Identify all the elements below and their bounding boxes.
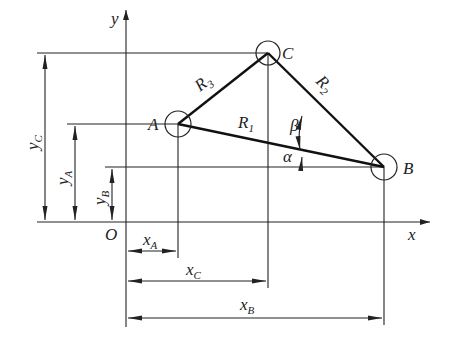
x-axis-label: x [407, 225, 416, 244]
x-dimensions: xA xC xB [128, 230, 382, 318]
dimension-yB-label: yB [90, 190, 111, 207]
y-axis-label: y [109, 9, 119, 28]
angle-beta-label: β [289, 116, 299, 135]
y-dimensions: yC yA yB [23, 55, 112, 220]
point-C-label: C [282, 44, 294, 63]
angle-alpha-arrow [301, 157, 302, 167]
origin-label: O [105, 225, 117, 244]
diagram-canvas: y x O yC yA yB xA xC xB R3 R2 R1 [0, 0, 450, 345]
point-B-label: B [403, 159, 414, 178]
link-R1 [178, 124, 384, 167]
link-R1-label: R1 [237, 113, 254, 134]
link-R3 [178, 53, 268, 124]
angle-alpha-label: α [283, 147, 293, 166]
link-R2-label: R2 [310, 71, 337, 98]
links: R3 R2 R1 [178, 53, 384, 167]
link-R3-label: R3 [190, 70, 217, 97]
angles: β α [283, 116, 302, 167]
dimension-xC-label: xC [185, 260, 202, 281]
angle-beta-arc [299, 116, 302, 150]
dimension-yC-label: yC [23, 134, 44, 152]
extension-lines [37, 53, 384, 325]
dimension-yA-label: yA [53, 170, 74, 187]
dimension-xB-label: xB [239, 295, 255, 316]
joints: A C B [147, 41, 414, 180]
dimension-xA-label: xA [142, 230, 158, 251]
point-A-label: A [147, 115, 159, 134]
